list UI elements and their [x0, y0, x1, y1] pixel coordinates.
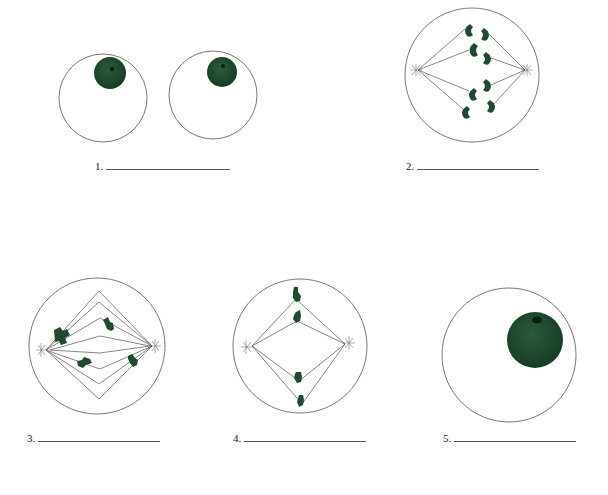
nucleus	[94, 57, 126, 89]
panel-3-label: 3.	[27, 432, 160, 444]
panel-number: 3.	[27, 432, 35, 444]
answer-blank[interactable]	[106, 168, 230, 170]
panel-number: 4.	[233, 432, 241, 444]
nucleolus	[532, 317, 542, 324]
panel-3-cell	[29, 278, 165, 414]
centrosome-icon	[241, 336, 355, 354]
panel-5-label: 5.	[443, 432, 576, 444]
cell-division-diagram	[0, 0, 608, 495]
nucleus	[207, 57, 237, 87]
panel-1-cells	[59, 51, 257, 142]
panel-2-label: 2.	[406, 160, 539, 172]
nucleolus	[221, 64, 225, 68]
chromosomes	[54, 317, 138, 368]
nucleolus	[110, 67, 114, 71]
answer-blank[interactable]	[417, 168, 539, 170]
panel-number: 2.	[406, 160, 414, 172]
spindle-fibers	[46, 291, 152, 399]
answer-blank[interactable]	[454, 440, 576, 442]
panel-1-label: 1.	[95, 160, 230, 172]
panel-number: 5.	[443, 432, 451, 444]
panel-number: 1.	[95, 160, 103, 172]
panel-2-cell	[405, 8, 539, 142]
chromatids	[462, 24, 495, 119]
panel-4-label: 4.	[233, 432, 366, 444]
answer-blank[interactable]	[38, 440, 160, 442]
answer-blank[interactable]	[244, 440, 366, 442]
panel-4-cell	[233, 279, 367, 413]
panel-5-cell	[442, 288, 576, 422]
